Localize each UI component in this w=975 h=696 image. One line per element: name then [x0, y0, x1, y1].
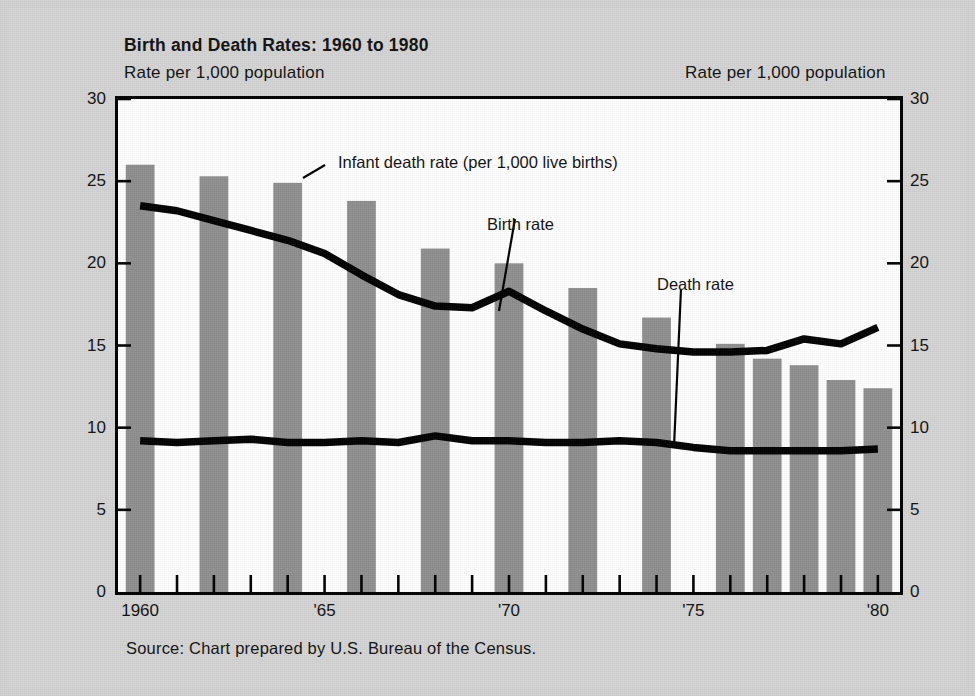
bar-1978 [790, 365, 819, 592]
x-axis-label-1980: '80 [867, 601, 889, 621]
y-axis-label-right-5: 5 [910, 500, 944, 520]
y-axis-label-left-5: 5 [72, 500, 106, 520]
chart-title: Birth and Death Rates: 1960 to 1980 [124, 35, 429, 56]
bar-1970 [495, 263, 524, 592]
y-axis-label-right-25: 25 [910, 171, 944, 191]
y-axis-label-right-15: 15 [910, 336, 944, 356]
x-tick-marks [140, 575, 878, 592]
chart-subtitle-left: Rate per 1,000 population [124, 63, 325, 83]
leader-line-infant [303, 165, 325, 178]
bar-1962 [200, 176, 229, 592]
chart-subtitle-right: Rate per 1,000 population [685, 63, 886, 83]
bar-1977 [753, 359, 782, 592]
plot-area [118, 99, 900, 592]
plot-svg [118, 99, 900, 592]
x-axis-label-1975: '75 [682, 601, 704, 621]
x-axis-label-1970: '70 [498, 601, 520, 621]
y-axis-label-left-10: 10 [72, 418, 106, 438]
annotation-infant-death-rate: Infant death rate (per 1,000 live births… [338, 153, 618, 172]
x-axis-label-1965: '65 [313, 601, 335, 621]
bar-1966 [347, 201, 376, 592]
bar-1979 [827, 380, 856, 592]
x-axis-label-1960: 1960 [121, 601, 159, 621]
y-axis-label-right-20: 20 [910, 253, 944, 273]
y-axis-label-right-30: 30 [910, 89, 944, 109]
annotation-death-rate: Death rate [657, 275, 734, 294]
y-axis-label-left-0: 0 [72, 582, 106, 602]
y-axis-label-left-20: 20 [72, 253, 106, 273]
chart-figure: Birth and Death Rates: 1960 to 1980 Rate… [0, 0, 975, 696]
bar-1974 [642, 318, 671, 592]
y-axis-label-right-10: 10 [910, 418, 944, 438]
annotation-birth-rate: Birth rate [487, 215, 554, 234]
chart-inner-panel: Birth and Death Rates: 1960 to 1980 Rate… [8, 8, 967, 688]
y-axis-label-left-25: 25 [72, 171, 106, 191]
bar-1976 [716, 344, 745, 592]
source-note: Source: Chart prepared by U.S. Bureau of… [126, 639, 536, 658]
bar-1960 [126, 165, 155, 592]
y-axis-label-right-0: 0 [910, 582, 944, 602]
bar-1980 [863, 388, 892, 592]
leader-line-death [674, 289, 681, 447]
y-axis-label-left-15: 15 [72, 336, 106, 356]
y-axis-label-left-30: 30 [72, 89, 106, 109]
